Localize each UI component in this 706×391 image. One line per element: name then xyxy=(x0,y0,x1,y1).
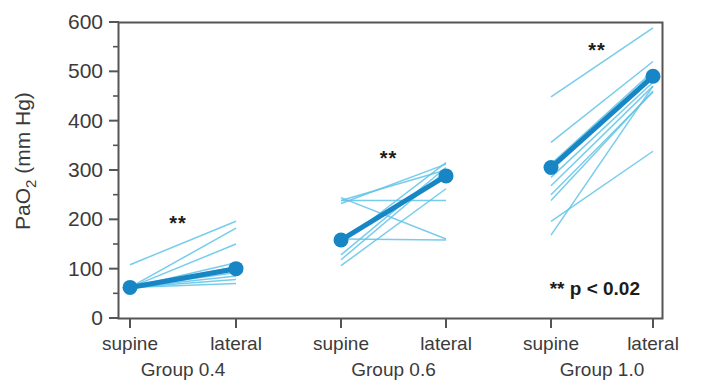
y-tick-label: 500 xyxy=(68,59,103,82)
y-axis-title-main: PaO xyxy=(11,188,34,230)
y-axis-tick-labels: 0100200300400500600 xyxy=(68,10,103,329)
x-group-label: Group 1.0 xyxy=(560,359,645,380)
figure-root: 0100200300400500600 ****** supinelateral… xyxy=(0,0,706,391)
subject-line xyxy=(341,239,446,240)
group-mean-marker xyxy=(544,160,559,175)
subject-line xyxy=(341,168,446,255)
group-mean-marker xyxy=(439,168,454,183)
y-axis-title-subscript: 2 xyxy=(22,180,39,188)
p-value-note: ** p < 0.02 xyxy=(550,278,640,299)
significance-markers: ****** xyxy=(169,39,606,234)
mean-line-series xyxy=(123,69,661,295)
x-category-label: supine xyxy=(523,333,579,354)
chart-canvas: 0100200300400500600 ****** supinelateral… xyxy=(0,0,706,391)
x-axis-group-labels: Group 0.4Group 0.6Group 1.0 xyxy=(141,359,645,380)
x-axis-category-labels: supinelateralsupinelateralsupinelateral xyxy=(102,333,679,354)
subject-line xyxy=(551,91,653,201)
y-tick-label: 0 xyxy=(91,306,103,329)
x-category-label: lateral xyxy=(420,333,472,354)
x-category-label: lateral xyxy=(627,333,679,354)
y-axis-title-unit: (mm Hg) xyxy=(11,92,34,180)
y-tick-label: 100 xyxy=(68,257,103,280)
y-tick-label: 300 xyxy=(68,158,103,181)
y-tick-label: 600 xyxy=(68,10,103,33)
y-tick-label: 200 xyxy=(68,207,103,230)
y-tick-label: 400 xyxy=(68,109,103,132)
x-category-label: lateral xyxy=(210,333,262,354)
x-group-label: Group 0.6 xyxy=(351,359,436,380)
group-mean-marker xyxy=(334,233,349,248)
significance-asterisk: ** xyxy=(169,212,187,234)
group-mean-line xyxy=(551,76,653,167)
group-mean-marker xyxy=(229,261,244,276)
subject-line xyxy=(551,71,653,164)
group-mean-marker xyxy=(646,69,661,84)
significance-asterisk: ** xyxy=(380,147,398,169)
x-category-label: supine xyxy=(313,333,369,354)
x-group-label: Group 0.4 xyxy=(141,359,226,380)
x-category-label: supine xyxy=(102,333,158,354)
y-axis-title: PaO2 (mm Hg) xyxy=(11,92,39,230)
significance-asterisk: ** xyxy=(588,39,606,61)
svg-text:PaO2 (mm Hg): PaO2 (mm Hg) xyxy=(11,92,39,230)
group-mean-marker xyxy=(123,280,138,295)
